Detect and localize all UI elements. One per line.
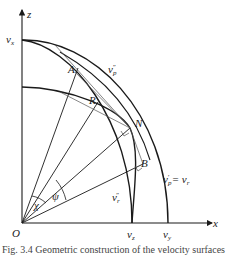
tick-label-vy: vy	[163, 229, 171, 242]
axis-label-x: x	[213, 218, 218, 229]
point-label-R: R	[89, 95, 96, 106]
angle-label-chi: χ	[34, 200, 39, 211]
point-label-A: A	[68, 64, 75, 75]
angle-label-psi: ψ	[52, 191, 59, 202]
figure-caption: Fig. 3.4 Geometric construction of the v…	[2, 244, 225, 255]
curve-label-vp-double: vp″	[108, 64, 115, 77]
axis-label-z: z	[27, 9, 31, 20]
tick-label-vx: vx	[6, 34, 14, 47]
origin-label: O	[12, 228, 20, 239]
point-label-N: N	[135, 118, 142, 129]
curve-label-vp-prime-eq-vr: vp′ = vr	[163, 174, 189, 187]
point-label-B: B	[141, 158, 148, 169]
tick-label-vz: vz	[127, 229, 135, 242]
curve-label-vr-double: vr″	[112, 192, 119, 205]
curve-vp-prime	[22, 40, 168, 223]
tangent-A-N	[75, 72, 130, 128]
